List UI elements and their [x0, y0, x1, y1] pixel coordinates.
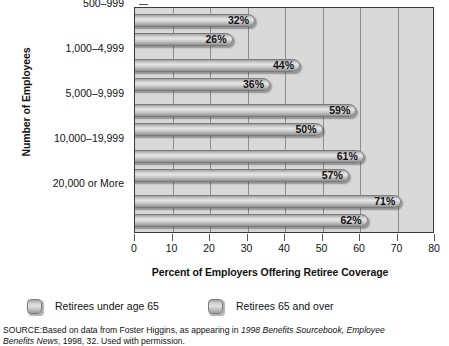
source-line-1: SOURCE:Based on data from Foster Higgins…: [3, 325, 449, 336]
y-axis-tick-label: 1,000–4,999: [14, 42, 124, 54]
x-axis-tick-mark: [247, 234, 248, 241]
legend-swatch-icon: [208, 299, 223, 314]
y-axis-tick-mark: [139, 4, 148, 5]
x-axis-tick-label: 70: [382, 242, 412, 254]
x-axis-tick-label: 80: [419, 242, 449, 254]
source-italic-1: 1998 Benefits Sourcebook, Employee: [241, 325, 385, 335]
bar-value-label: 44%: [258, 59, 294, 72]
source-line-2: Benefits News, 1998, 32. Used with permi…: [3, 336, 449, 346]
x-axis-title: Percent of Employers Offering Retiree Co…: [100, 266, 440, 278]
y-axis-tick-label: 5,000–9,999: [14, 87, 124, 99]
legend-item: Retirees 65 and over: [208, 296, 333, 316]
bar-value-label: 71%: [359, 195, 395, 208]
x-axis-tick-mark: [172, 234, 173, 241]
x-axis-tick-mark: [209, 234, 210, 241]
bar-value-label: 59%: [314, 104, 350, 117]
y-axis-tick-labels: 500–9991,000–4,9995,000–9,99910,000–19,9…: [14, 0, 124, 233]
x-axis-tick-mark: [134, 234, 135, 241]
x-axis-tick-label: 10: [157, 242, 187, 254]
x-axis-tick-label: 50: [307, 242, 337, 254]
source-italic-2: Benefits News: [3, 336, 58, 346]
x-axis-tick-mark: [359, 234, 360, 241]
x-axis-tick-label: 0: [119, 242, 149, 254]
y-axis-tick-label: 10,000–19,999: [14, 132, 124, 144]
chart-legend: Retirees under age 65Retirees 65 and ove…: [0, 296, 449, 318]
bar-value-label: 50%: [281, 123, 317, 136]
legend-label: Retirees under age 65: [55, 300, 159, 312]
x-axis-tick-mark: [397, 234, 398, 241]
x-axis-tick-label: 60: [344, 242, 374, 254]
bar-value-label: 36%: [228, 78, 264, 91]
bar-value-label: 61%: [322, 150, 358, 163]
y-axis-tick-label: 20,000 or More: [14, 177, 124, 189]
source-note: SOURCE:Based on data from Foster Higgins…: [3, 325, 449, 346]
x-axis-tick-label: 20: [194, 242, 224, 254]
x-axis-tick-mark: [434, 234, 435, 241]
legend-item: Retirees under age 65: [27, 296, 159, 316]
x-axis-tick-label: 40: [269, 242, 299, 254]
bar-value-label: 26%: [191, 33, 227, 46]
x-axis-tick-label: 30: [232, 242, 262, 254]
bar-value-label: 62%: [326, 214, 362, 227]
bar-value-label: 57%: [307, 169, 343, 182]
source-prefix: SOURCE:Based on data from Foster Higgins…: [3, 325, 241, 335]
legend-swatch-icon: [27, 299, 42, 314]
y-axis-tick-label: 500–999: [14, 0, 124, 9]
legend-label: Retirees 65 and over: [236, 300, 333, 312]
source-suffix: , 1998, 32. Used with permission.: [58, 336, 185, 346]
plot-area: 32%26%44%36%59%50%61%57%71%62%: [134, 7, 434, 233]
x-axis-tick-mark: [284, 234, 285, 241]
bar-value-label: 32%: [213, 14, 249, 27]
x-axis-tick-mark: [322, 234, 323, 241]
